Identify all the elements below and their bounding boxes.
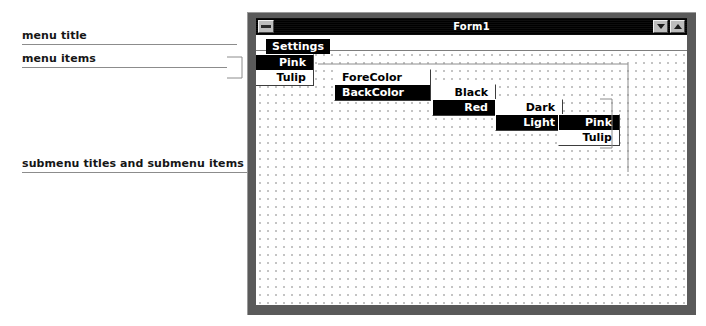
chevron-down-glyph — [657, 24, 665, 29]
menu-item-backcolor[interactable]: BackColor — [335, 85, 430, 100]
annotation-submenus: submenu titles and submenu items — [22, 157, 244, 170]
menu-item-black[interactable]: Black — [433, 85, 495, 100]
chevron-up-glyph — [674, 24, 682, 29]
menu-item-light[interactable]: Light — [496, 115, 562, 130]
form-design-surface[interactable]: Pink Tulip ForeColor BackColor Black Red… — [256, 51, 687, 305]
minimize-icon[interactable] — [653, 20, 668, 33]
window-client-frame: Form1 Pink Tulip ForeColor BackColor B — [256, 18, 687, 305]
window-menu-icon[interactable] — [258, 20, 274, 33]
window-menu-glyph — [261, 25, 271, 28]
menu-item-light-pink[interactable]: Pink — [559, 115, 619, 130]
menu-item-forecolor[interactable]: ForeColor — [335, 70, 430, 85]
form1-window[interactable]: Form1 Pink Tulip ForeColor BackColor B — [247, 12, 696, 315]
annotation-menu-title-leader — [22, 44, 237, 45]
menu-level4[interactable]: Dark Light — [495, 99, 563, 131]
annotation-menu-items: menu items — [22, 52, 96, 65]
window-title: Form1 — [453, 21, 490, 32]
menu-level1[interactable]: Pink Tulip — [256, 54, 314, 86]
menu-item-red[interactable]: Red — [433, 100, 495, 115]
menu-title-settings[interactable]: Settings — [266, 39, 330, 54]
menu-level5[interactable]: Pink Tulip — [558, 114, 620, 146]
annotation-menu-title: menu title — [22, 29, 87, 42]
title-bar[interactable]: Form1 — [256, 18, 687, 35]
menu-item-dark[interactable]: Dark — [496, 100, 562, 115]
menu-item-pink[interactable]: Pink — [256, 55, 313, 70]
menu-item-light-tulip[interactable]: Tulip — [559, 130, 619, 145]
annotation-menu-items-leader — [22, 67, 227, 68]
menu-level3[interactable]: Black Red — [432, 84, 496, 116]
menu-item-tulip[interactable]: Tulip — [256, 70, 313, 85]
maximize-icon[interactable] — [670, 20, 685, 33]
menu-level2[interactable]: ForeColor BackColor — [334, 69, 431, 101]
